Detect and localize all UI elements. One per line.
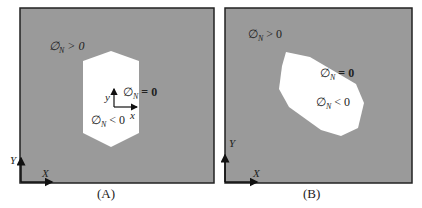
panel-a: ∅N > 0 ∅N = 0 ∅N < 0 y x Y X (A) [10,8,214,201]
global-x-label-a: X [41,167,50,179]
boundary-label-a: ∅N = 0 [123,85,157,101]
inside-label-b: ∅N < 0 [316,95,350,111]
local-y-label: y [104,91,110,103]
global-y-label-a: Y [10,154,18,166]
panel-b: ∅N > 0 ∅N = 0 ∅N < 0 Y X (B) [225,8,412,201]
figure: ∅N > 0 ∅N = 0 ∅N < 0 y x Y X (A) ∅N > 0 … [0,0,422,208]
inside-label-a: ∅N < 0 [91,113,125,129]
boundary-label-b: ∅N = 0 [320,66,354,82]
local-x-label: x [129,109,135,121]
outside-label-b: ∅N > 0 [248,27,282,43]
caption-a: (A) [97,186,115,201]
global-x-label-b: X [252,167,261,179]
hole-hexagon [83,51,139,147]
outside-label-a: ∅N > 0 [49,39,84,55]
caption-b: (B) [303,186,320,201]
